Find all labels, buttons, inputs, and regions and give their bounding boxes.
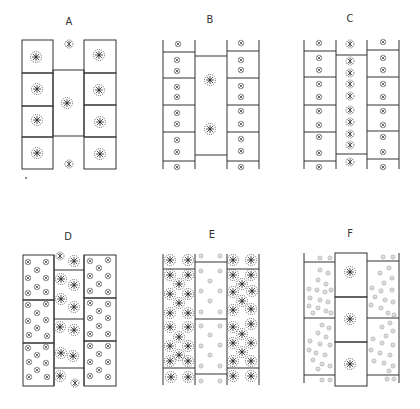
panel-d (23, 255, 116, 386)
panel-a-cells (25, 40, 106, 179)
cell-diagram-svg (0, 0, 420, 409)
panel-e (163, 254, 259, 385)
